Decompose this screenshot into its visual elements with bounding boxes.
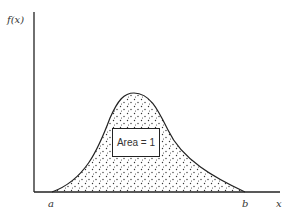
upper-bound-label: b <box>242 198 248 209</box>
area-label: Area = 1 <box>117 137 155 148</box>
area-label-box: Area = 1 <box>112 128 160 157</box>
y-axis-label: f(x) <box>7 14 24 25</box>
pdf-diagram <box>0 0 295 216</box>
lower-bound-label: a <box>48 198 54 209</box>
x-axis-label: x <box>276 198 282 209</box>
